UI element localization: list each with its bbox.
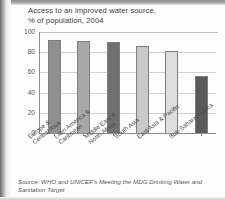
scan-edge-left bbox=[0, 0, 7, 200]
y-tick-60: 60 bbox=[28, 69, 35, 76]
chart-title: Access to an improved water source, % of… bbox=[28, 6, 218, 26]
scan-edge-left-soft bbox=[7, 0, 11, 200]
bar-east-asia-pacific bbox=[165, 51, 178, 133]
y-tick-20: 20 bbox=[28, 110, 35, 117]
scan-edge-bottom bbox=[0, 197, 225, 200]
y-tick-100: 100 bbox=[24, 29, 35, 36]
source-note-line-2: Sanitation Target bbox=[18, 186, 218, 194]
figure-panel: Access to an improved water source, % of… bbox=[0, 0, 225, 200]
chart-title-line-1: Access to an improved water source, bbox=[28, 6, 218, 16]
source-note-line-1: Source: WHO and UNICEF's Meeting the MDG… bbox=[18, 178, 218, 186]
scan-edge-top bbox=[0, 0, 225, 5]
y-tick-40: 40 bbox=[28, 89, 35, 96]
chart-title-line-2: % of population, 2004 bbox=[28, 16, 218, 26]
y-axis: 100 80 60 40 20 0 bbox=[17, 28, 37, 140]
source-note: Source: WHO and UNICEF's Meeting the MDG… bbox=[18, 178, 218, 194]
x-axis-category-labels: Europe &Central AsiaLatin America &Carib… bbox=[39, 133, 219, 175]
y-tick-80: 80 bbox=[28, 49, 35, 56]
